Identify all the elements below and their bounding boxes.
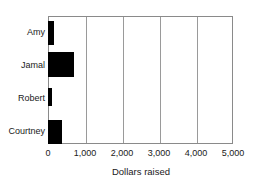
bar-row (48, 21, 233, 45)
bar-row (48, 120, 233, 144)
bar-amy (48, 21, 54, 45)
bar-jamal (48, 52, 74, 77)
bar-chart: Amy Jamal Robert Courtney 0 1,000 2,000 … (0, 0, 260, 188)
category-label-robert: Robert (18, 93, 45, 103)
bar-row (48, 52, 233, 77)
bar-courtney (48, 120, 62, 144)
xtick-label-0: 0 (45, 148, 50, 158)
category-label-courtney: Courtney (8, 126, 45, 136)
bar-row (48, 88, 233, 106)
xtick-label-5000: 5,000 (222, 148, 245, 158)
bars-layer (48, 16, 233, 144)
category-label-jamal: Jamal (21, 60, 45, 70)
category-label-amy: Amy (27, 27, 45, 37)
bar-robert (48, 88, 52, 106)
xtick-label-4000: 4,000 (185, 148, 208, 158)
xtick-label-1000: 1,000 (74, 148, 97, 158)
xtick-label-2000: 2,000 (111, 148, 134, 158)
x-axis-title: Dollars raised (0, 166, 260, 177)
x-axis-title-text: Dollars raised (112, 166, 170, 177)
xtick-label-3000: 3,000 (148, 148, 171, 158)
